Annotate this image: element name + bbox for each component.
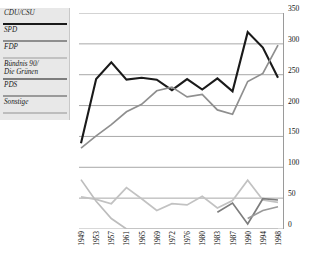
legend-item-label: Bündnis 90/ Die Grünen [4,60,65,77]
y-axis-tick-label: 300 [288,36,299,44]
chart-canvas [79,13,284,229]
x-axis-tick-label: 1953 [92,231,101,246]
plot-area [79,13,284,229]
legend-item-label: CDU/CSU [4,9,65,17]
x-axis-tick-label: 1998 [274,231,283,246]
legend-item: PDS [0,80,69,97]
chart-legend: CDU/CSU SPD FDP Bündnis 90/ Die Grünen P… [0,8,70,120]
x-axis-tick-label: 1990 [244,231,253,246]
series-line [217,199,278,224]
series-line [81,45,278,148]
series-lines [81,32,278,229]
x-axis-tick-label: 1983 [213,231,222,246]
y-axis-tick-label: 350 [288,5,299,13]
x-axis-tick-label: 1980 [198,231,207,246]
legend-color-swatch [3,112,67,114]
y-axis-tick-label: 0 [288,221,292,229]
y-axis-tick-label: 100 [288,159,299,167]
legend-item-label: Sonstige [4,98,65,106]
chart-figure: CDU/CSU SPD FDP Bündnis 90/ Die Grünen P… [0,0,318,263]
y-axis-tick-label: 200 [288,98,299,106]
legend-item: Bündnis 90/ Die Grünen [0,59,69,80]
gridlines [79,13,283,229]
x-axis-tick-label: 1987 [229,231,238,246]
y-axis-tick-label: 50 [288,190,296,198]
x-axis-tick-label: 1965 [138,231,147,246]
legend-item: CDU/CSU [0,8,69,25]
legend-item: Sonstige [0,97,69,114]
y-axis-tick-label: 250 [288,67,299,75]
series-line [248,207,278,219]
y-axis-labels: 050100150200250300350 [288,0,318,240]
x-axis-tick-label: 1994 [259,231,268,246]
x-axis-tick-label: 1949 [77,231,86,246]
series-line [81,180,278,210]
x-axis-tick-label: 1972 [168,231,177,246]
legend-item-label: SPD [4,26,65,34]
legend-item: SPD [0,25,69,42]
y-axis-tick-label: 150 [288,128,299,136]
legend-item: FDP [0,42,69,59]
x-axis-tick-label: 1969 [153,231,162,246]
series-line [81,32,278,143]
x-axis-labels: 1949195319571961196519691972197619801983… [79,231,284,263]
x-axis-tick-label: 1976 [183,231,192,246]
x-axis-tick-label: 1961 [122,231,131,246]
x-axis-tick-label: 1957 [107,231,116,246]
legend-item-label: FDP [4,43,65,51]
legend-item-label: PDS [4,81,65,89]
